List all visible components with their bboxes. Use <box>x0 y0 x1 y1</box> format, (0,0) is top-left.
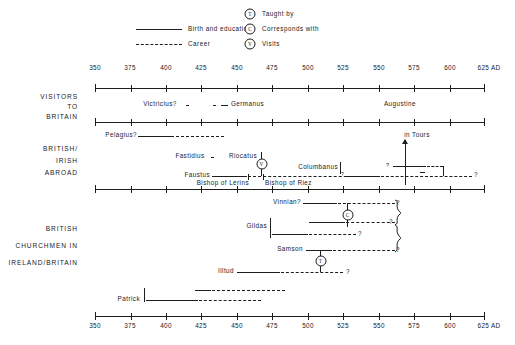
legend-label-birth-education: Birth and education <box>188 25 252 32</box>
entry-branch-dashed-in-tours <box>427 166 443 167</box>
entry-connector-riocatus-bottom <box>261 169 262 176</box>
axis-tick-label: 425 <box>195 64 207 72</box>
axis-tick-label: 350 <box>89 64 101 72</box>
axis-tick-label: 575 <box>408 64 420 72</box>
entry-mark-victricius <box>186 105 189 106</box>
entry-label-vinnian: Vinnian? <box>273 198 301 206</box>
entry-label-pelagius: Pelagius? <box>105 131 137 139</box>
axis-tick-label: 450 <box>231 322 243 330</box>
entry-query-in-tours-left: ? <box>386 161 390 169</box>
axis-tick-label: 475 <box>266 322 278 330</box>
axis-rule-4 <box>95 312 485 322</box>
axis-tick-label-last: 625 AD <box>478 64 501 72</box>
legend-label-visits: Visits <box>262 40 280 47</box>
section-title-line: BRITISH/ <box>43 145 78 153</box>
timeline-figure: Birth and education Career T Taught by C… <box>0 0 515 345</box>
entry-career-line-gildas-b <box>309 234 356 235</box>
entry-label-fastidius: Fastidius <box>175 152 204 160</box>
entry-label-victricius: Victricius? <box>143 100 177 108</box>
up-arrow-icon <box>402 139 408 144</box>
entry-query-columbanus-end: ? <box>474 171 478 179</box>
taught-by-icon: T <box>245 9 256 20</box>
corresponds-with-icon: C <box>342 210 353 221</box>
entry-label-in-tours: in Tours <box>404 131 430 139</box>
axis-tick-label: 500 <box>302 64 314 72</box>
entry-birth-line-patrick-a <box>195 290 211 291</box>
entry-branch-solid-in-tours <box>393 166 426 167</box>
entry-career-line-samson <box>333 250 395 251</box>
entry-query-illtud: ? <box>346 268 350 276</box>
axis-tick-label: 550 <box>373 322 385 330</box>
axis-tick-label: 475 <box>266 64 278 72</box>
entry-birth-line-samson <box>306 250 332 251</box>
entry-query-columbanus: ? <box>341 170 344 178</box>
section-title-line: VISITORS <box>40 93 78 101</box>
entry-bracket-gildas <box>270 218 271 238</box>
entry-birth-line-pelagius <box>138 136 174 137</box>
section-title-line: BRITISH <box>46 225 78 233</box>
legend-label-corresponds-with: Corresponds with <box>262 25 319 32</box>
entry-birth-line-gildas-a <box>309 222 345 223</box>
section-title-line: CHURCHMEN IN <box>16 242 78 250</box>
entry-career-line-illtud <box>281 272 343 273</box>
entry-career-line-patrick-b <box>199 300 261 301</box>
legend-label-taught-by: Taught by <box>262 10 294 17</box>
entry-dash-germanus <box>221 105 228 106</box>
entry-label-illtud: Illtud <box>218 267 234 275</box>
entry-label-riocatus: Riocatus <box>229 152 257 160</box>
entry-tick-bishop-of-riez <box>263 174 264 180</box>
axis-tick-label: 525 <box>337 322 349 330</box>
visits-icon: V <box>256 159 267 170</box>
axis-tick-label: 600 <box>444 322 456 330</box>
entry-career-line-gildas-a <box>346 222 395 223</box>
entry-label-samson: Samson <box>277 245 303 253</box>
entry-dot-germanus-1 <box>213 105 216 106</box>
axis-tick-label: 450 <box>231 64 243 72</box>
section-title-line: ABROAD <box>45 169 78 177</box>
axis-tick-label: 375 <box>124 322 136 330</box>
axis-tick-label: 500 <box>302 322 314 330</box>
axis-tick-label: 525 <box>337 64 349 72</box>
entry-tick-bishop-of-lerins <box>248 174 249 180</box>
grouping-brace <box>392 199 408 254</box>
entry-birth-line-columbanus <box>346 176 380 177</box>
entry-branch-drop-in-tours <box>443 166 444 176</box>
legend-dashed-line-swatch <box>136 44 182 45</box>
entry-label-augustine: Augustine <box>384 100 416 108</box>
axis-rule-3 <box>95 185 485 195</box>
entry-label-gildas: Gildas <box>246 222 267 230</box>
axis-tick-label: 350 <box>89 322 101 330</box>
section-title-line: TO <box>67 103 78 111</box>
entry-mark-fastidius <box>211 157 214 158</box>
section-title-line: BRITAIN <box>46 113 78 121</box>
taught-by-icon: T <box>315 256 326 267</box>
axis-tick-label: 575 <box>408 322 420 330</box>
entry-query-gildas-b: ? <box>358 230 362 238</box>
entry-career-line-pelagius <box>176 136 224 137</box>
axis-tick-label: 425 <box>195 322 207 330</box>
entry-label-columbanus: Columbanus <box>298 163 338 171</box>
axis-tick-label: 600 <box>444 64 456 72</box>
entry-birth-line-vinnian <box>303 203 337 204</box>
entry-bracket-patrick <box>144 288 145 302</box>
entry-birth-line-patrick-b <box>146 300 198 301</box>
axis-tick-label: 400 <box>160 64 172 72</box>
entry-birth-line-faustus <box>212 176 247 177</box>
entry-mark-columbanus-mid <box>420 172 425 173</box>
axis-rule-1 <box>95 84 485 94</box>
section-title-line: IRISH <box>56 157 78 165</box>
entry-birth-line-gildas-b <box>272 234 308 235</box>
section-title-line: IRELAND/BRITAIN <box>9 259 78 267</box>
entry-career-line-patrick-a <box>212 290 285 291</box>
axis-tick-label-last: 625 AD <box>478 322 501 330</box>
corresponds-with-icon: C <box>245 24 256 35</box>
axis-tick-label: 550 <box>373 64 385 72</box>
axis-tick-label: 375 <box>124 64 136 72</box>
entry-label-patrick: Patrick <box>118 295 140 303</box>
entry-career-line-columbanus <box>381 176 472 177</box>
legend-label-career: Career <box>188 40 210 47</box>
legend-solid-line-swatch <box>136 29 182 30</box>
entry-label-faustus: Faustus <box>184 171 210 179</box>
legend: Birth and education Career T Taught by C… <box>0 0 515 56</box>
entry-label-germanus: Germanus <box>231 100 264 108</box>
